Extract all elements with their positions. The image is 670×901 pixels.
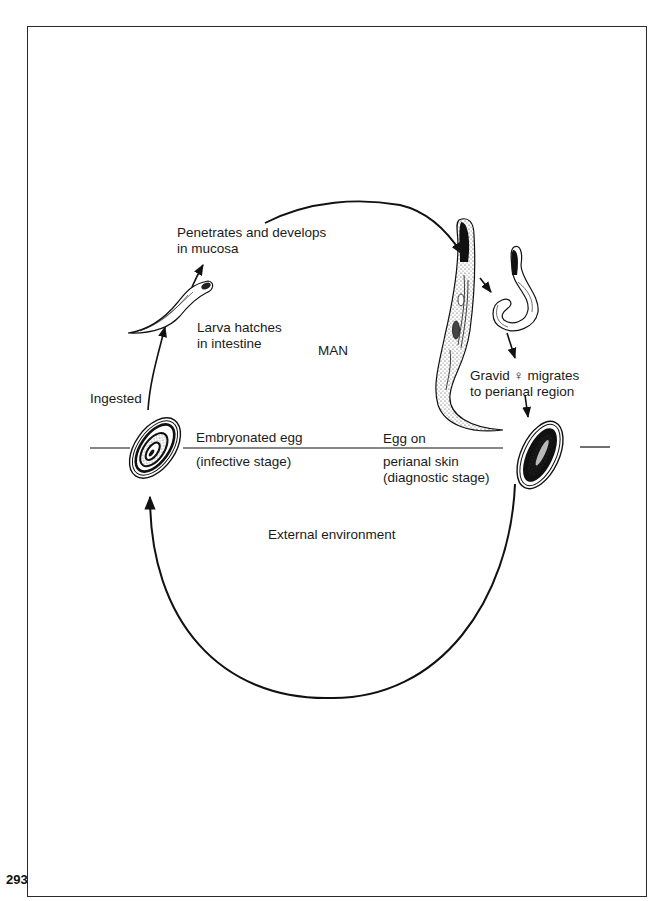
label-mucosa: Penetrates and develops in mucosa (177, 225, 326, 257)
life-cycle-diagram (0, 0, 670, 901)
adult-to-curled-arrow (480, 278, 491, 292)
perianal-egg-illustration (508, 414, 573, 495)
label-ingested: Ingested (90, 391, 142, 407)
label-environment-zone: External environment (268, 527, 396, 543)
ingested-arrow (148, 327, 165, 410)
label-embryonated-egg: Embryonated egg (196, 430, 303, 446)
label-egg-on: Egg on (383, 431, 426, 447)
label-larva: Larva hatches in intestine (197, 320, 282, 352)
external-return-arrow (150, 484, 515, 698)
curled-to-gravid-arrow (507, 333, 515, 358)
curled-worm-illustration (493, 246, 538, 330)
label-infective-stage: (infective stage) (196, 454, 291, 470)
label-gravid-female: Gravid ♀ migrates to perianal region (470, 368, 579, 400)
label-perianal-skin: perianal skin (diagnostic stage) (383, 454, 490, 486)
label-host-zone: MAN (318, 343, 348, 359)
